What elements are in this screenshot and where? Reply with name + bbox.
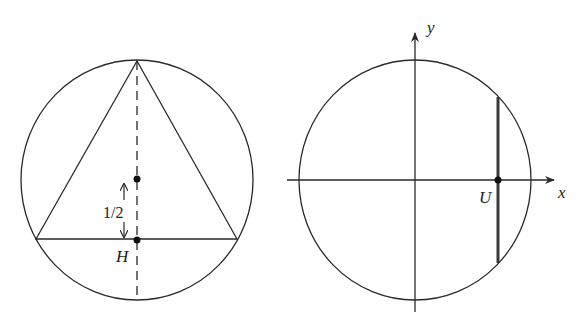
point-u [495, 177, 502, 184]
x-axis-label: x [557, 183, 566, 202]
right-figure: U x y [287, 18, 566, 312]
y-axis-label: y [425, 18, 435, 37]
distance-label: 1/2 [103, 204, 123, 221]
left-figure: 1/2 H [21, 60, 253, 300]
diagram-canvas: 1/2 H U x y [0, 0, 586, 321]
foot-label-h: H [115, 247, 130, 266]
point-label-u: U [479, 188, 493, 207]
center-point [134, 176, 141, 183]
foot-point-h [134, 237, 141, 244]
